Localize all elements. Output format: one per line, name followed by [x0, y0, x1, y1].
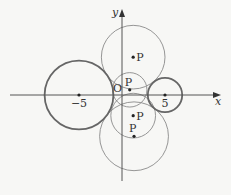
point-p-label: P	[136, 51, 144, 64]
origin-label: O	[113, 82, 122, 95]
right-circle-center-label: 5	[162, 97, 169, 110]
point-p-label: P	[129, 122, 137, 135]
axes: x y O	[10, 6, 222, 181]
y-axis-label: y	[111, 6, 119, 19]
diagram: x y O PPPP−55	[0, 0, 231, 195]
point-p-label: P	[125, 76, 133, 89]
point-p-center	[132, 56, 135, 59]
left-circle-center-label: −5	[71, 97, 87, 110]
point-p-label: P	[136, 110, 144, 123]
x-axis-label: x	[215, 95, 222, 108]
y-axis-arrow-icon	[119, 9, 125, 17]
point-p-center	[132, 114, 135, 117]
